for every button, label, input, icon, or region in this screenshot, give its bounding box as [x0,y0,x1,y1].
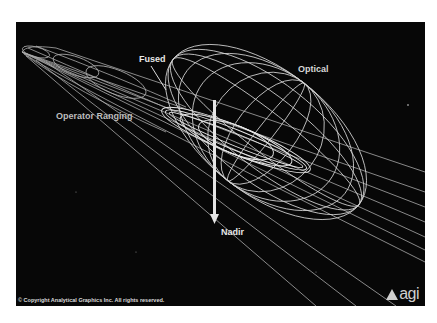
agi-logo-text: agi [399,286,419,302]
label-optical: Optical [298,64,329,74]
label-operator-ranging: Operator Ranging [56,111,133,121]
cropped-page-text [0,0,437,8]
agi-logo: agi [386,286,419,302]
copyright-notice: © Copyright Analytical Graphics Inc. All… [18,297,164,303]
figure-frame: Fused Optical Operator Ranging Nadir © C… [16,22,425,306]
wireframe-scene [16,22,425,306]
label-fused: Fused [139,54,166,64]
agi-triangle-icon [386,289,398,300]
label-nadir: Nadir [221,227,244,237]
